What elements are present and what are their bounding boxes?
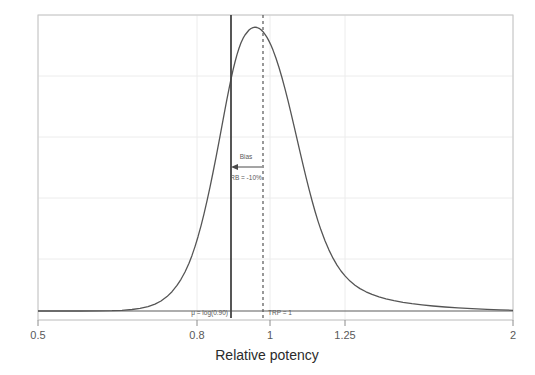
x-tick-label-1: 0.8 bbox=[189, 329, 204, 341]
bias-annotation-label: Bias bbox=[240, 153, 253, 160]
x-tick-label-0: 0.5 bbox=[30, 329, 45, 341]
mu-line-label: μ = log(0.90) bbox=[191, 309, 228, 317]
x-tick-label-3: 1.25 bbox=[334, 329, 355, 341]
x-tick-label-4: 2 bbox=[510, 329, 516, 341]
chart-figure: Bias RB = -10% μ = log(0.90) TRP = 1 0.5… bbox=[0, 0, 535, 375]
density-plot-svg: Bias RB = -10% μ = log(0.90) TRP = 1 0.5… bbox=[0, 0, 535, 375]
x-axis-title: Relative potency bbox=[215, 347, 319, 363]
x-tick-label-2: 1 bbox=[267, 329, 273, 341]
trp-line-label: TRP = 1 bbox=[268, 309, 292, 316]
plot-background bbox=[0, 0, 535, 375]
relative-bias-annotation-label: RB = -10% bbox=[230, 174, 262, 181]
